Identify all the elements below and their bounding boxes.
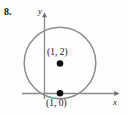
center-point-dot: [57, 60, 64, 67]
tangent-point-dot: [57, 90, 64, 97]
x-axis-label: x: [113, 98, 117, 107]
y-axis-arrow-icon: [42, 12, 47, 17]
y-axis-label: y: [38, 7, 42, 16]
center-point-label: (1, 2): [47, 48, 68, 58]
circle-figure: 8. y x (1, 2) (1, 0): [0, 0, 127, 115]
x-axis-arrow-icon: [114, 91, 119, 96]
problem-number: 8.: [4, 7, 12, 17]
tangent-point-label: (1, 0): [46, 99, 67, 109]
